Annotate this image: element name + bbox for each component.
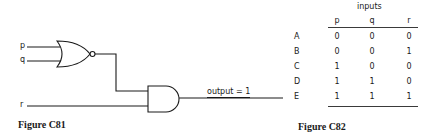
- table-group-header: inputs: [357, 3, 382, 11]
- table-cell: 0: [403, 78, 415, 86]
- header-rule: [328, 27, 418, 28]
- table-cell: 1: [403, 48, 415, 56]
- column-header-p: p: [331, 17, 343, 25]
- nor-gate: [57, 41, 90, 67]
- row-label: D: [294, 78, 300, 86]
- table-cell: 0: [366, 63, 378, 71]
- table-cell: 1: [403, 93, 415, 101]
- table-cell: 0: [403, 33, 415, 41]
- figure-c81-caption: Figure C81: [18, 120, 66, 130]
- nor-bubble: [90, 52, 95, 57]
- row-label: E: [294, 93, 299, 101]
- column-header-q: q: [366, 17, 378, 25]
- input-label-r: r: [20, 101, 23, 109]
- table-cell: 0: [366, 33, 378, 41]
- input-label-q: q: [20, 56, 25, 64]
- row-label: C: [294, 63, 300, 71]
- bottom-rule: [328, 106, 418, 107]
- table-cell: 1: [366, 78, 378, 86]
- and-gate: [148, 86, 179, 112]
- table-cell: 1: [331, 78, 343, 86]
- table-cell: 1: [331, 93, 343, 101]
- row-label: A: [294, 33, 299, 41]
- wire-nor-out: [95, 54, 148, 91]
- circuit-diagram: [0, 0, 300, 134]
- row-label: B: [294, 48, 300, 56]
- figure-c82-caption: Figure C82: [298, 122, 346, 132]
- table-cell: 0: [331, 33, 343, 41]
- column-header-r: r: [403, 17, 415, 25]
- output-label: output = 1: [207, 87, 250, 98]
- table-cell: 0: [331, 48, 343, 56]
- table-cell: 0: [403, 63, 415, 71]
- table-cell: 1: [331, 63, 343, 71]
- table-cell: 1: [366, 93, 378, 101]
- input-label-p: p: [20, 42, 25, 50]
- table-cell: 0: [366, 48, 378, 56]
